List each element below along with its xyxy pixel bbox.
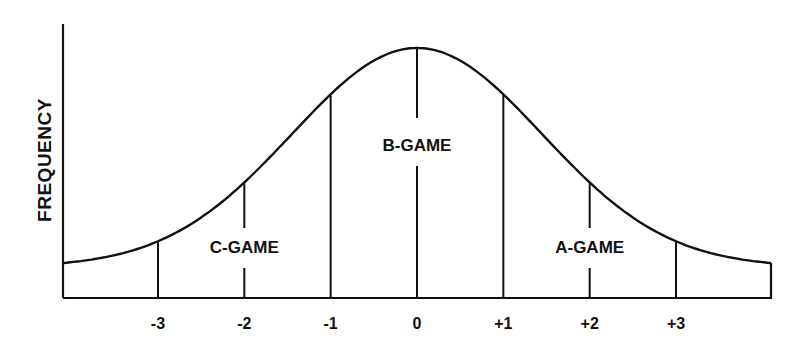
tick-label: +3 [667, 315, 685, 332]
tick-labels: -3-2-10+1+2+3 [151, 315, 685, 332]
a-game-label: A-GAME [555, 238, 624, 257]
tick-label: 0 [413, 315, 422, 332]
y-axis-label: FREQUENCY [34, 98, 55, 222]
tick-label: -3 [151, 315, 165, 332]
b-game-label: B-GAME [383, 136, 452, 155]
tick-label: +1 [494, 315, 512, 332]
c-game-label: C-GAME [210, 238, 279, 257]
tick-label: -2 [237, 315, 251, 332]
tick-label: +2 [581, 315, 599, 332]
bell-curve-diagram: -3-2-10+1+2+3 C-GAMEB-GAMEA-GAME FREQUEN… [0, 0, 801, 348]
sigma-lines [158, 48, 771, 298]
tick-label: -1 [324, 315, 338, 332]
